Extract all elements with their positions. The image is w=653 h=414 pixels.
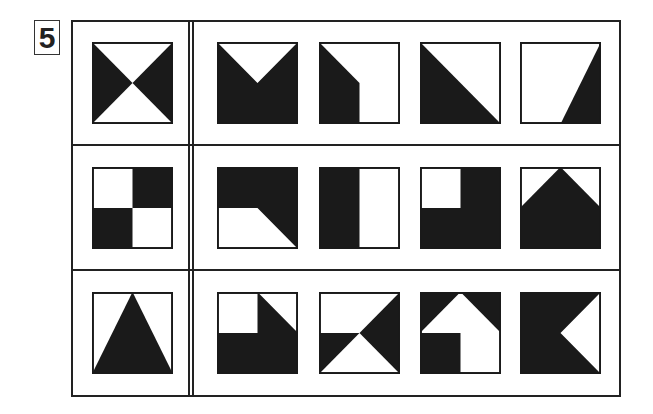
answer-option-1-row-2[interactable] xyxy=(217,167,298,249)
bowtie-left-right-black-icon xyxy=(92,42,173,124)
answer-option-3-row-2[interactable] xyxy=(420,167,501,249)
lower-left-triangle-icon xyxy=(420,42,501,124)
answer-option-4-row-3[interactable] xyxy=(520,292,601,374)
house-shape-icon xyxy=(520,167,601,249)
left-half-black-icon xyxy=(319,167,400,249)
answer-option-3-row-3[interactable] xyxy=(420,292,501,374)
row-divider-2 xyxy=(71,269,621,271)
answer-option-4-row-2[interactable] xyxy=(520,167,601,249)
right-sliver-triangle-icon xyxy=(520,42,601,124)
checkerboard-2x2-icon xyxy=(92,167,173,249)
white-top-left-quadrant-icon xyxy=(420,167,501,249)
question-tile-row-3 xyxy=(92,292,173,374)
split-triangles-icon xyxy=(319,292,400,374)
divider-line-1 xyxy=(188,20,190,397)
answer-option-3-row-1[interactable] xyxy=(420,42,501,124)
answer-option-1-row-3[interactable] xyxy=(217,292,298,374)
left-black-chamfer-icon xyxy=(319,42,400,124)
top-black-with-slope-icon xyxy=(217,167,298,249)
v-notch-top-icon xyxy=(217,42,298,124)
answer-option-4-row-1[interactable] xyxy=(520,42,601,124)
center-triangle-icon xyxy=(92,292,173,374)
puzzle-number: 5 xyxy=(34,20,60,55)
answer-option-1-row-1[interactable] xyxy=(217,42,298,124)
question-tile-row-2 xyxy=(92,167,173,249)
answer-option-2-row-2[interactable] xyxy=(319,167,400,249)
row-divider-1 xyxy=(71,144,621,146)
bottom-black-with-slope-icon xyxy=(217,292,298,374)
divider-line-2 xyxy=(192,20,194,397)
white-right-notch-icon xyxy=(520,292,601,374)
question-tile-row-1 xyxy=(92,42,173,124)
answer-option-2-row-1[interactable] xyxy=(319,42,400,124)
answer-option-2-row-3[interactable] xyxy=(319,292,400,374)
white-arrow-shape-icon xyxy=(420,292,501,374)
